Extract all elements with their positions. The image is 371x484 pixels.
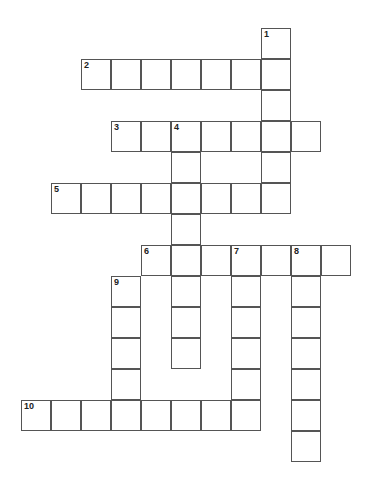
- crossword-cell[interactable]: [141, 183, 171, 214]
- crossword-cell[interactable]: [231, 59, 261, 90]
- crossword-cell[interactable]: 8: [291, 245, 321, 276]
- clue-number: 9: [114, 278, 119, 287]
- crossword-cell[interactable]: [171, 152, 201, 183]
- crossword-cell[interactable]: [291, 338, 321, 369]
- crossword-cell[interactable]: [51, 400, 81, 431]
- clue-number: 5: [54, 185, 59, 194]
- crossword-cell[interactable]: 6: [141, 245, 171, 276]
- crossword-cell[interactable]: [201, 59, 231, 90]
- crossword-cell[interactable]: [261, 90, 291, 121]
- crossword-cell[interactable]: [171, 307, 201, 338]
- crossword-cell[interactable]: [201, 245, 231, 276]
- crossword-cell[interactable]: [171, 400, 201, 431]
- crossword-cell[interactable]: [231, 276, 261, 307]
- crossword-cell[interactable]: [141, 121, 171, 152]
- crossword-cell[interactable]: [141, 59, 171, 90]
- crossword-cell[interactable]: 2: [81, 59, 111, 90]
- crossword-cell[interactable]: [81, 183, 111, 214]
- crossword-cell[interactable]: [261, 59, 291, 90]
- clue-number: 3: [114, 123, 119, 132]
- crossword-cell[interactable]: [231, 338, 261, 369]
- crossword-cell[interactable]: [321, 245, 351, 276]
- crossword-cell[interactable]: [171, 338, 201, 369]
- crossword-cell[interactable]: [261, 121, 291, 152]
- crossword-cell[interactable]: [231, 183, 261, 214]
- crossword-cell[interactable]: [291, 400, 321, 431]
- crossword-cell[interactable]: 5: [51, 183, 81, 214]
- crossword-cell[interactable]: [261, 245, 291, 276]
- crossword-cell[interactable]: [231, 121, 261, 152]
- clue-number: 8: [294, 247, 299, 256]
- crossword-cell[interactable]: [201, 121, 231, 152]
- crossword-cell[interactable]: [291, 121, 321, 152]
- crossword-cell[interactable]: [291, 276, 321, 307]
- crossword-cell[interactable]: [261, 183, 291, 214]
- clue-number: 2: [84, 61, 89, 70]
- clue-number: 10: [24, 402, 34, 411]
- clue-number: 4: [174, 123, 179, 132]
- clue-number: 7: [234, 247, 239, 256]
- crossword-cell[interactable]: [171, 276, 201, 307]
- crossword-cell[interactable]: [291, 307, 321, 338]
- crossword-cell[interactable]: [231, 307, 261, 338]
- crossword-cell[interactable]: [201, 183, 231, 214]
- crossword-cell[interactable]: [291, 431, 321, 462]
- crossword-cell[interactable]: 1: [261, 28, 291, 59]
- crossword-cell[interactable]: 3: [111, 121, 141, 152]
- crossword-cell[interactable]: [111, 183, 141, 214]
- crossword-cell[interactable]: [291, 369, 321, 400]
- crossword-cell[interactable]: 4: [171, 121, 201, 152]
- crossword-cell[interactable]: [171, 183, 201, 214]
- crossword-cell[interactable]: [171, 59, 201, 90]
- crossword-cell[interactable]: [81, 400, 111, 431]
- crossword-cell[interactable]: [231, 400, 261, 431]
- crossword-cell[interactable]: [111, 307, 141, 338]
- crossword-cell[interactable]: 10: [21, 400, 51, 431]
- crossword-cell[interactable]: [141, 400, 171, 431]
- clue-number: 6: [144, 247, 149, 256]
- clue-number: 1: [264, 30, 269, 39]
- crossword-cell[interactable]: [111, 338, 141, 369]
- crossword-cell[interactable]: [201, 400, 231, 431]
- crossword-grid: 12345678910: [0, 0, 371, 484]
- crossword-cell[interactable]: [231, 369, 261, 400]
- crossword-cell[interactable]: [111, 400, 141, 431]
- crossword-cell[interactable]: [111, 59, 141, 90]
- crossword-cell[interactable]: [111, 369, 141, 400]
- crossword-cell[interactable]: 9: [111, 276, 141, 307]
- crossword-cell[interactable]: [261, 152, 291, 183]
- crossword-cell[interactable]: [171, 214, 201, 245]
- crossword-cell[interactable]: [171, 245, 201, 276]
- crossword-cell[interactable]: 7: [231, 245, 261, 276]
